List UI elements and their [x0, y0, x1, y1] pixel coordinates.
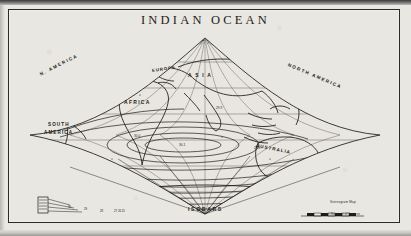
svg-text:29.6: 29.6 — [48, 174, 54, 178]
scale-caption-bottom: on Reverse of Inverse — [307, 212, 379, 216]
region-label: SOUTH — [48, 122, 70, 127]
scan-edge-top — [0, 0, 411, 5]
svg-text:29.3: 29.3 — [316, 182, 322, 186]
svg-text:29.5: 29.5 — [330, 164, 336, 168]
svg-text:29.2: 29.2 — [308, 190, 314, 194]
map-graphic: 30.1 30.0 29.9 29.8 29.8 29.7 29.6 29.5 … — [8, 9, 400, 223]
svg-text:29.3: 29.3 — [62, 197, 68, 201]
svg-text:30.1: 30.1 — [179, 143, 185, 147]
svg-text:29.4: 29.4 — [332, 172, 338, 176]
svg-text:29.8: 29.8 — [44, 158, 50, 162]
svg-text:29.7: 29.7 — [46, 166, 52, 170]
svg-text:29.3: 29.3 — [112, 178, 118, 182]
scan-edge-left — [0, 5, 5, 231]
region-label: AMERICA — [44, 130, 73, 135]
scale-caption-top: Stereogram Map — [307, 200, 379, 204]
svg-text:29.6: 29.6 — [326, 156, 332, 160]
svg-text:29.4: 29.4 — [54, 190, 60, 194]
map-page: INDIAN OCEAN — [0, 0, 411, 236]
scan-edge-bottom — [0, 230, 411, 236]
svg-text:29.5: 29.5 — [50, 182, 56, 186]
svg-text:30.0: 30.0 — [134, 134, 140, 138]
isobar-contours — [50, 109, 338, 209]
svg-text:29.9: 29.9 — [216, 106, 222, 110]
svg-text:29.8: 29.8 — [58, 108, 64, 112]
region-label: A S I A — [188, 72, 212, 78]
region-label: AFRICA — [124, 99, 151, 105]
